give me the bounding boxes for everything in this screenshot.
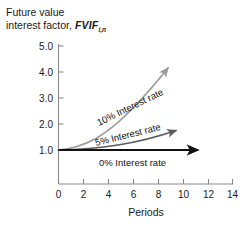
- x-tick-label: 6: [131, 189, 137, 200]
- x-tick-label: 4: [106, 189, 112, 200]
- y-tick-label: 5.0: [39, 41, 53, 52]
- y-tick-label: 4.0: [39, 67, 53, 78]
- plot-area: 5.0 4.0 3.0 2.0 1.0 0 2 4 6 8 10 12 14: [0, 0, 243, 227]
- x-axis-tick-labels: 0 2 4 6 8 10 12 14: [56, 189, 239, 200]
- y-tick-label: 3.0: [39, 93, 53, 104]
- x-tick-label: 14: [227, 189, 239, 200]
- y-tick-label: 2.0: [39, 119, 53, 130]
- x-axis-title: Periods: [128, 206, 164, 218]
- x-tick-label: 8: [156, 189, 162, 200]
- x-tick-label: 10: [178, 189, 190, 200]
- x-tick-label: 0: [56, 189, 62, 200]
- x-axis-ticks: [59, 179, 233, 184]
- x-tick-label: 2: [81, 189, 87, 200]
- y-axis-ticks: [59, 46, 64, 150]
- curve-label-0-percent: 0% Interest rate: [99, 157, 166, 168]
- x-tick-label: 12: [203, 189, 215, 200]
- y-tick-label: 1.0: [39, 145, 53, 156]
- y-axis-tick-labels: 5.0 4.0 3.0 2.0 1.0: [39, 41, 53, 156]
- chart-figure: Future value interest factor, FVIFi,n 5.…: [0, 0, 243, 227]
